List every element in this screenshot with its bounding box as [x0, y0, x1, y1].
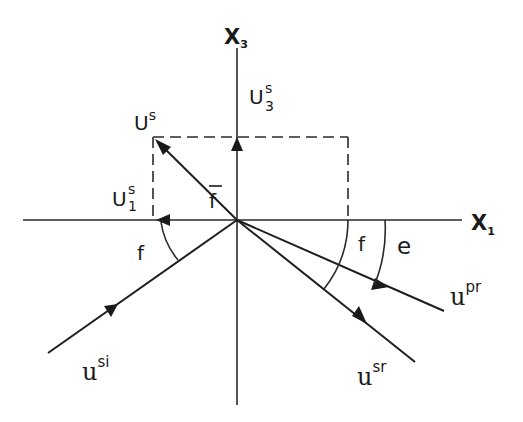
reflected-sv-label: usr [357, 358, 387, 391]
svg-text:U: U [112, 187, 127, 211]
incident-sv-label: usi [82, 353, 109, 386]
x1-axis-label: X1 [471, 211, 495, 238]
projection-rectangle [153, 137, 348, 220]
angle-e-label: e [397, 233, 411, 259]
angle-f-incident-label: f [137, 241, 145, 265]
reflected-p-label: upr [450, 278, 482, 311]
component-1-label: U s 1 [112, 181, 137, 214]
arrowhead-icon [104, 304, 118, 317]
reflection-diagram: X3 X1 Us U s 3 U s 1 f f f e usi upr usr [0, 0, 523, 422]
svg-text:3: 3 [265, 98, 274, 114]
angle-f-bar-label: f [209, 186, 222, 213]
component-3-arrowhead-icon [231, 137, 243, 151]
angle-f-reflected-arc [324, 220, 348, 289]
svg-text:1: 1 [128, 198, 137, 214]
x3-axis-label: X3 [224, 25, 248, 51]
angle-f-reflected-label: f [358, 232, 366, 256]
svg-text:s: s [265, 80, 272, 96]
reflected-p-ray [237, 220, 444, 311]
reflected-sv-ray [237, 220, 415, 362]
angle-e-reflected-arc [374, 220, 385, 286]
svg-text:s: s [128, 181, 135, 197]
svg-text:U: U [249, 85, 264, 109]
displacement-label: Us [134, 107, 156, 135]
svg-text:f: f [209, 189, 217, 213]
arrowhead-icon [352, 306, 367, 324]
displacement-vector [155, 139, 237, 220]
component-1-arrowhead-icon [156, 214, 170, 226]
incident-sv-ray [48, 220, 237, 353]
component-3-label: U s 3 [249, 80, 274, 114]
angle-f-incident-arc [161, 222, 178, 260]
